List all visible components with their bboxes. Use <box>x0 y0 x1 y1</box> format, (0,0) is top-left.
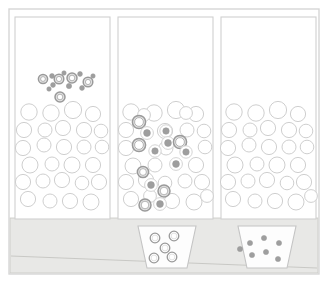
bed-particle <box>269 157 285 173</box>
bed-particle <box>227 157 243 173</box>
cluster-dot-particle <box>66 83 71 88</box>
bed-particle <box>260 120 275 135</box>
migrating-ring-particle-core <box>135 141 144 150</box>
collected-dot-particle <box>263 249 268 254</box>
bed-particle <box>91 174 106 189</box>
bed-particle <box>20 191 35 206</box>
migrating-dot-particle <box>183 149 189 155</box>
bed-particle <box>118 174 133 189</box>
migrating-ring-particle-core <box>160 187 168 195</box>
bed-particle <box>241 174 255 188</box>
vessel-right <box>238 226 296 268</box>
bed-particle <box>305 190 318 203</box>
bed-particle <box>15 140 30 155</box>
bed-particle <box>186 194 202 210</box>
bed-particle <box>281 122 296 137</box>
bed-particle <box>85 106 100 121</box>
cluster-ring-particle-core <box>57 94 63 100</box>
bed-particle <box>221 122 236 137</box>
migrating-ring-particle-core <box>141 201 149 209</box>
bed-particle <box>198 140 212 154</box>
cluster-ring-particle-core <box>69 75 75 81</box>
bed-particle <box>45 157 59 171</box>
cluster-ring-particle-core <box>85 79 90 84</box>
collected-ring-particle-core <box>152 235 158 241</box>
migrating-dot-particle <box>144 130 151 137</box>
bed-particle <box>269 101 286 118</box>
bed-particle <box>248 105 264 121</box>
collected-ring-particle-core <box>171 233 177 239</box>
bed-particle <box>77 140 91 154</box>
bed-particle <box>220 140 235 155</box>
bed-particle <box>178 174 192 188</box>
collected-ring-particle-core <box>169 254 175 260</box>
bed-particle <box>55 120 70 135</box>
bed-particle <box>22 157 38 173</box>
bed-particle <box>54 172 69 187</box>
bed-particle <box>261 139 276 154</box>
collected-dot-particle <box>261 235 266 240</box>
bed-particle <box>194 174 209 189</box>
migrating-ring-particle-core <box>135 118 144 127</box>
bed-particle <box>296 174 311 189</box>
migrating-dot-particle <box>157 201 164 208</box>
collected-dot-particle <box>276 240 281 245</box>
bed-particle <box>83 194 99 210</box>
bed-particle <box>64 101 81 118</box>
bed-particle <box>95 140 109 154</box>
bed-particle <box>226 104 242 120</box>
bed-particle <box>290 106 305 121</box>
migrating-dot-particle <box>173 161 180 168</box>
collected-ring-particle-core <box>162 245 168 251</box>
bed-particle <box>299 124 313 138</box>
bed-particle <box>259 172 274 187</box>
cluster-dot-particle <box>47 87 51 91</box>
bed-particle <box>36 174 50 188</box>
bed-particle <box>64 157 80 173</box>
bed-particle <box>37 138 51 152</box>
migrating-ring-particle-core <box>140 169 147 176</box>
bed-particle <box>123 191 138 206</box>
collected-dot-particle <box>249 252 254 257</box>
bed-particle <box>288 194 304 210</box>
collected-ring-particle-core <box>151 255 157 261</box>
cluster-ring-particle-core <box>56 76 61 81</box>
cluster-dot-particle <box>51 83 56 88</box>
migrating-ring-particle-core <box>176 138 185 147</box>
bed-particle <box>267 193 282 208</box>
migrating-dot-particle <box>165 140 172 147</box>
bed-particle <box>38 123 52 137</box>
bed-particle <box>242 138 256 152</box>
bed-particle <box>62 193 77 208</box>
bed-particle <box>250 157 264 171</box>
bed-particle <box>201 190 214 203</box>
figure-canvas <box>0 0 328 283</box>
bed-particle <box>43 105 59 121</box>
bed-particle <box>220 174 235 189</box>
bed-particle <box>243 123 257 137</box>
bed-particle <box>16 122 31 137</box>
particle-separation-diagram <box>0 0 328 283</box>
cluster-dot-particle <box>91 74 95 78</box>
cluster-dot-particle <box>78 72 83 77</box>
bed-particle <box>197 124 211 138</box>
bed-particle <box>280 176 294 190</box>
collected-dot-particle <box>237 246 242 251</box>
bed-particle <box>76 122 91 137</box>
bed-particle <box>85 157 100 172</box>
bed-particle <box>75 176 89 190</box>
bed-particle <box>225 191 240 206</box>
cluster-dot-particle <box>62 71 66 75</box>
bed-particle <box>180 107 193 120</box>
bed-particle <box>282 140 296 154</box>
bed-particle <box>43 194 57 208</box>
collected-dot-particle <box>247 240 252 245</box>
bed-particle <box>21 104 37 120</box>
bed-particle <box>15 174 30 189</box>
bed-particle <box>94 124 108 138</box>
bed-particle <box>188 157 203 172</box>
bed-particle <box>300 140 314 154</box>
bed-particle <box>290 157 305 172</box>
migrating-dot-particle <box>152 148 158 154</box>
cluster-ring-particle-core <box>41 77 46 82</box>
